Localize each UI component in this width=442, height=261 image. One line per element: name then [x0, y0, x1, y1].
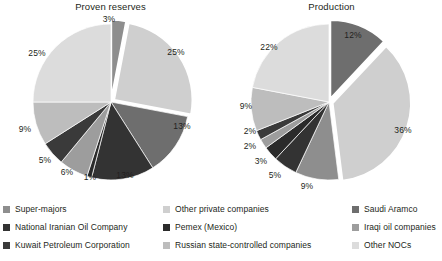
- slice-percentage-label: 3%: [255, 156, 268, 166]
- pie-chart-production: [221, 10, 442, 196]
- legend-item-label: Saudi Aramco: [364, 204, 418, 214]
- legend-column-2: Other private companiesPemex (Mexico)Rus…: [163, 201, 353, 255]
- slice-percentage-label: 25%: [28, 48, 45, 58]
- chart-legend: Super-majorsNational Iranian Oil Company…: [0, 196, 442, 261]
- slice-percentage-label: 2%: [244, 126, 257, 136]
- legend-item-label: Pemex (Mexico): [175, 222, 237, 232]
- legend-item-label: Kuwait Petroleum Corporation: [15, 240, 130, 250]
- legend-swatch-icon: [352, 242, 359, 249]
- slice-percentage-label: 6%: [61, 167, 74, 177]
- legend-column-3: Saudi AramcoIraqi oil companiesOther NOC…: [352, 201, 442, 255]
- legend-item[interactable]: Pemex (Mexico): [163, 219, 353, 235]
- pie-chart-proven-reserves: [0, 10, 221, 196]
- pie-panel-production: Production: [221, 0, 442, 196]
- slice-percentage-label: 5%: [269, 170, 282, 180]
- legend-item[interactable]: Iraqi oil companies: [352, 219, 442, 235]
- slice-percentage-label: 2%: [244, 141, 257, 151]
- slice-percentage-label: 25%: [167, 47, 184, 57]
- slice-percentage-label: 13%: [116, 170, 133, 180]
- pie-panel-proven-reserves: Proven reserves: [0, 0, 221, 196]
- legend-swatch-icon: [163, 206, 170, 213]
- legend-item[interactable]: National Iranian Oil Company: [3, 219, 163, 235]
- slice-percentage-label: 22%: [260, 42, 277, 52]
- legend-swatch-icon: [163, 224, 170, 231]
- legend-item-label: Super-majors: [15, 204, 67, 214]
- pie-slice: [33, 24, 111, 102]
- legend-item[interactable]: Kuwait Petroleum Corporation: [3, 237, 163, 253]
- charts-container: Proven reserves Production 3%25%13%13%1%…: [0, 0, 442, 196]
- legend-item-label: National Iranian Oil Company: [15, 222, 127, 232]
- slice-percentage-label: 9%: [19, 124, 32, 134]
- legend-item-label: Iraqi oil companies: [364, 222, 436, 232]
- slice-percentage-label: 9%: [240, 101, 253, 111]
- slice-percentage-label: 5%: [39, 155, 52, 165]
- slice-percentage-label: 3%: [103, 14, 116, 24]
- legend-swatch-icon: [163, 242, 170, 249]
- legend-item-label: Other NOCs: [364, 240, 411, 250]
- slice-percentage-label: 1%: [84, 172, 97, 182]
- legend-swatch-icon: [3, 206, 10, 213]
- legend-item[interactable]: Other private companies: [163, 201, 353, 217]
- legend-item[interactable]: Saudi Aramco: [352, 201, 442, 217]
- legend-swatch-icon: [352, 224, 359, 231]
- legend-item-label: Russian state-controlled companies: [175, 240, 311, 250]
- legend-item[interactable]: Russian state-controlled companies: [163, 237, 353, 253]
- legend-swatch-icon: [3, 224, 10, 231]
- legend-item[interactable]: Super-majors: [3, 201, 163, 217]
- slice-percentage-label: 13%: [173, 121, 190, 131]
- slice-percentage-label: 36%: [394, 125, 411, 135]
- legend-column-1: Super-majorsNational Iranian Oil Company…: [3, 201, 163, 255]
- legend-swatch-icon: [352, 206, 359, 213]
- slice-percentage-label: 12%: [344, 30, 361, 40]
- slice-percentage-label: 9%: [301, 181, 314, 191]
- legend-swatch-icon: [3, 242, 10, 249]
- legend-item-label: Other private companies: [175, 204, 269, 214]
- pie-slice: [114, 23, 192, 114]
- legend-item[interactable]: Other NOCs: [352, 237, 442, 253]
